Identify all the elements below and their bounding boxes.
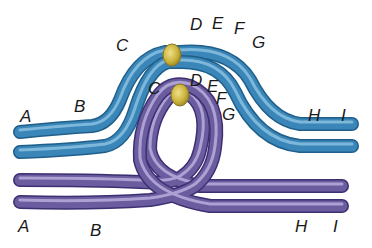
blue-labels: A B C D E F G H I <box>19 14 346 126</box>
label-blue-e: E <box>212 14 224 33</box>
purple-centromere <box>171 84 189 106</box>
label-blue-d: D <box>190 15 202 34</box>
label-blue-h: H <box>308 106 321 125</box>
label-purple-d: D <box>190 71 202 90</box>
label-purple-i: I <box>333 217 338 236</box>
blue-chromatid-2 <box>20 62 352 152</box>
label-purple-c: C <box>148 79 161 98</box>
label-blue-b: B <box>74 97 85 116</box>
blue-centromere <box>163 44 181 66</box>
label-purple-b: B <box>90 221 101 240</box>
label-purple-a: A <box>17 217 29 236</box>
label-purple-h: H <box>295 217 308 236</box>
label-blue-i: I <box>341 106 346 125</box>
label-purple-g: G <box>222 105 235 124</box>
label-blue-a: A <box>19 107 31 126</box>
label-blue-c: C <box>116 36 129 55</box>
inversion-loop-diagram: A B C D E F G H I C D E F G A B H I <box>0 0 372 248</box>
label-blue-f: F <box>234 19 246 38</box>
label-blue-g: G <box>252 33 265 52</box>
